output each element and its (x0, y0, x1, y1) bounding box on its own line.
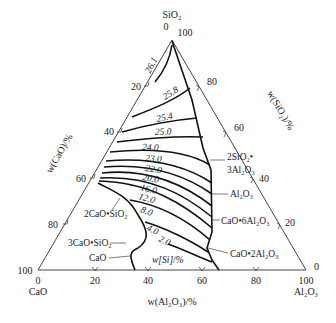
left-tick-60: 60 (76, 173, 86, 184)
bottom-axis-title: w(Al₂O₃)/% (147, 296, 196, 308)
isoline-label-24-0: 24.0 (142, 142, 159, 153)
triangle-frame (38, 40, 306, 270)
isoline-label-25-8: 25.8 (161, 84, 181, 101)
vertex-label-cao: CaO (29, 286, 47, 297)
bottom-tick-80: 80 (251, 275, 261, 286)
bottom-corner-tick-0: 0 (36, 275, 41, 286)
phase-label-3al2o3: 3Al₂O₃ (227, 165, 255, 175)
vertex-label-sio2: SiO₂ (162, 9, 181, 20)
phase-label-cao: CaO (89, 253, 107, 263)
right-tick-60: 60 (234, 122, 244, 133)
right-tick-40: 40 (259, 173, 269, 184)
isoline-label-8-0: 8.0 (139, 204, 154, 218)
phase-label-2sio2: 2SiO₂• (227, 152, 253, 162)
left-axis-title: w(CaO)/% (43, 132, 75, 176)
isoline-label-2-0: 2.0 (157, 234, 172, 248)
right-corner-tick-0: 0 (314, 261, 319, 272)
bottom-tick-40: 40 (143, 275, 153, 286)
left-tick-40: 40 (104, 126, 114, 137)
isoline-25-0 (117, 137, 203, 142)
phase-label-cao-6al2o3: CaO•6Al₂O₃ (221, 216, 269, 226)
isoline-label-25-0: 25.0 (155, 126, 172, 137)
left-tick-80: 80 (48, 219, 58, 230)
right-tick-20: 20 (285, 217, 295, 228)
bottom-tick-60: 60 (197, 275, 207, 286)
phase-label-3cao-sio2: 3CaO•SiO₂ (68, 238, 112, 248)
vertex-label-al2o3: Al₂O₃ (294, 286, 318, 297)
bottom-tick-20: 20 (90, 275, 100, 286)
ternary-diagram: SiO₂ 0 100 100 0 CaO 0 100 Al₂O₃ 20 40 6… (0, 0, 336, 323)
phase-label-cao-2al2o3: CaO•2Al₂O₃ (230, 249, 278, 259)
right-axis-title: w(SiO₂)/% (264, 88, 296, 132)
left-corner-tick-100: 100 (18, 265, 33, 276)
left-tick-20: 20 (131, 81, 141, 92)
phase-label-al2o3: Al₂O₃ (230, 189, 253, 199)
leader-cao (109, 256, 130, 258)
isoline-label-4-0: 4.0 (145, 223, 160, 237)
apex-tick-0: 0 (164, 21, 169, 32)
phase-label-2cao-sio2: 2CaO•SiO₂ (84, 209, 128, 219)
leader-cao-2al2o3 (208, 248, 228, 253)
right-tick-80: 80 (207, 76, 217, 87)
bottom-corner-tick-100: 100 (299, 275, 314, 286)
apex-tick-100: 100 (178, 27, 193, 38)
isoline-unit-label: w[Si]/% (152, 255, 184, 265)
